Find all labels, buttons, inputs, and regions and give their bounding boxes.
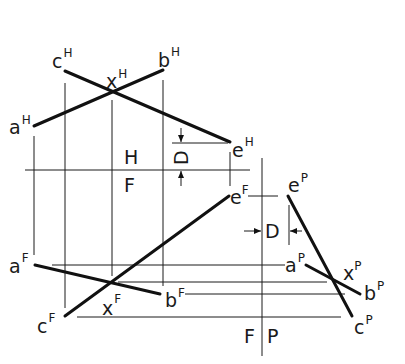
- dimension-label-d-fp: D: [265, 220, 280, 242]
- fold-label-p: P: [267, 325, 278, 347]
- line-ab-h: [34, 70, 163, 126]
- label-b-p: bP: [364, 279, 384, 304]
- label-a-f: aF: [9, 251, 29, 277]
- arrow-up-icon: [178, 171, 184, 178]
- fold-label-f2: F: [244, 325, 255, 347]
- label-b-h: bH: [158, 45, 180, 71]
- dimension-d-fp: D: [244, 205, 302, 245]
- label-a-h: aH: [9, 113, 31, 138]
- fold-label-h: H: [124, 146, 138, 168]
- arrow-down-icon: [178, 135, 184, 142]
- label-c-f: cF: [37, 311, 55, 337]
- fold-label-f: F: [124, 174, 135, 196]
- label-a-p: aP: [285, 251, 305, 276]
- arrow-left-icon: [290, 228, 297, 234]
- descriptive-geometry-diagram: H F F P D D: [0, 0, 405, 364]
- line-ce-h: [65, 71, 230, 142]
- label-x-f: xF: [102, 292, 121, 319]
- label-e-p: eP: [288, 171, 308, 196]
- label-c-h: cH: [52, 46, 72, 72]
- label-e-f: eF: [230, 183, 249, 208]
- labels-p-view: eP aP xP bP cP: [285, 171, 384, 338]
- dimension-label-d-hf: D: [170, 150, 192, 165]
- line-ab-f: [35, 265, 160, 294]
- lines-f-view: [35, 196, 229, 316]
- label-c-p: cP: [354, 313, 373, 338]
- lines-h-view: [34, 70, 230, 142]
- line-ce-f: [65, 196, 229, 316]
- arrow-right-icon: [254, 228, 261, 234]
- label-e-h: eH: [232, 135, 254, 161]
- label-x-p: xP: [343, 259, 362, 284]
- labels-h-view: aH cH xH bH eH: [9, 45, 254, 161]
- label-b-f: bF: [165, 286, 185, 311]
